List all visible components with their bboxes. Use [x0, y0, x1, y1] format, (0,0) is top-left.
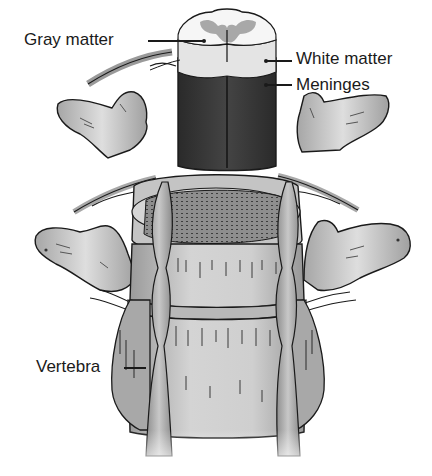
- label-gray-matter: Gray matter: [24, 31, 114, 48]
- label-meninges: Meninges: [296, 76, 370, 93]
- spinal-cord: [150, 9, 276, 171]
- label-white-matter: White matter: [296, 50, 392, 67]
- illustration: [0, 0, 432, 476]
- bottom-fade: [100, 430, 340, 476]
- leader-gray-matter: [148, 40, 204, 42]
- upper-left-process: [57, 92, 147, 158]
- leader-dot-meninges: [264, 83, 268, 87]
- leader-meninges: [266, 84, 292, 86]
- leader-dot-white-matter: [264, 59, 268, 63]
- lower-left-process: [35, 226, 136, 292]
- leader-vertebra: [124, 367, 146, 369]
- upper-right-process: [297, 93, 389, 152]
- leader-dot-gray-matter: [202, 39, 206, 43]
- label-vertebra: Vertebra: [36, 358, 100, 375]
- lower-right-process: [304, 220, 410, 290]
- spinal-cord-diagram: Gray matter White matter Meninges Verteb…: [0, 0, 432, 476]
- leader-white-matter: [266, 60, 292, 62]
